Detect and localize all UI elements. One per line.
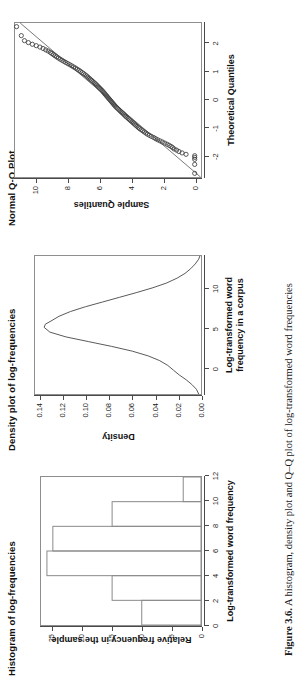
density-curve [35,256,201,394]
qqplot-x-axis [204,22,205,178]
density-y-tick-label: 0.14 [35,403,44,436]
histogram-x-tick-label: 12 [211,462,220,490]
rotated-page-wrapper: Histogram of log-frequencies 024681012 L… [0,0,305,682]
qqplot-point [14,25,18,29]
qqplot-y-tick [164,179,165,183]
panel-density: Density plot of log-frequencies 0510 Log… [0,232,258,457]
histogram-x-tick [205,550,209,551]
histogram-y-tick [82,627,83,631]
density-y-axis [34,395,202,396]
density-y-tick [202,396,203,400]
qqplot-x-label: Theoretical Quantiles [226,22,237,178]
histogram-bar [53,526,201,551]
density-y-tick [40,396,41,400]
qqplot-y-tick-label: 10 [31,186,40,219]
density-x-tick [205,288,209,289]
density-y-tick-label: 0.02 [174,403,183,436]
histogram-x-tick [205,500,209,501]
histogram-x-tick-label: 10 [211,487,220,515]
qqplot-y-tick [36,179,37,183]
histogram-y-tick [202,627,203,631]
histogram-x-tick-label: 2 [211,587,220,615]
density-x-tick-label: 10 [211,275,220,303]
density-x-tick-label: 0 [211,355,220,383]
qqplot-y-tick [68,179,69,183]
histogram-x-tick [205,625,209,626]
density-x-tick-label: 5 [211,315,220,343]
qqplot-point [19,34,23,38]
histogram-y-label: Relative frequency in the sample [32,634,212,645]
histogram-y-tick [172,627,173,631]
histogram-bars [41,477,201,625]
qqplot-x-tick [205,71,209,72]
histogram-x-tick-label: 0 [211,612,220,640]
panel-qqplot: Normal Q-Q Plot -2-1012 Theoretical Quan… [0,0,258,232]
qqplot-x-tick-label: -1 [211,114,220,142]
density-title: Density plot of log-frequencies [6,309,17,451]
histogram-x-tick-label: 8 [211,512,220,540]
histogram-bar [142,600,201,625]
qqplot-y-label: Sample Quantiles [62,199,162,210]
histogram-x-label: Log-transformed word frequency [225,476,236,626]
histogram-bar [183,477,201,502]
qqplot-x-tick-label: 0 [211,86,220,114]
histogram-bar [112,576,201,601]
qqplot-plot-area [14,22,202,178]
histogram-bar [112,502,201,527]
panel-histogram: Histogram of log-frequencies 024681012 L… [0,457,258,682]
qqplot-y-tick-label: 0 [191,186,200,219]
density-y-tick [86,396,87,400]
density-y-label: Density [74,431,164,442]
histogram-y-axis [40,626,202,627]
qqplot-point [22,39,26,43]
histogram-x-tick [205,575,209,576]
qqplot-y-tick [132,179,133,183]
density-plot-area [34,255,202,395]
density-y-tick [63,396,64,400]
density-line [44,256,200,394]
figure-caption-text: A histogram, density plot and Q–Q plot o… [283,283,294,606]
histogram-x-tick [205,525,209,526]
histogram-x-tick [205,600,209,601]
qqplot-y-tick [100,179,101,183]
density-y-tick [179,396,180,400]
histogram-bar [47,551,201,576]
qqplot-point [193,162,197,166]
histogram-y-tick [142,627,143,631]
histogram-x-tick-label: 6 [211,537,220,565]
density-y-tick-label: 0.12 [58,403,67,436]
density-x-tick [205,368,209,369]
histogram-title: Histogram of log-frequencies [6,541,17,676]
density-y-tick [156,396,157,400]
histogram-x-tick [205,475,209,476]
histogram-x-axis [204,476,205,626]
qqplot-x-tick-label: 2 [211,29,220,57]
qqplot-x-tick-label: -2 [211,143,220,171]
qqplot-x-tick [205,127,209,128]
density-x-label-line1: Log-transformed word [224,277,234,373]
qqplot-y-tick [196,179,197,183]
figure-caption-label: Figure 3.6. [283,608,294,656]
qqplot-x-tick [205,99,209,100]
qqplot-x-tick [205,156,209,157]
figure-page: Histogram of log-frequencies 024681012 L… [0,0,305,682]
figure-caption: Figure 3.6. A histogram, density plot an… [283,16,294,656]
density-x-axis [204,255,205,395]
qqplot-points [15,23,201,177]
qqplot-x-tick-label: 1 [211,58,220,86]
histogram-y-tick [112,627,113,631]
histogram-y-tick [52,627,53,631]
histogram-x-tick-label: 4 [211,562,220,590]
density-x-tick [205,328,209,329]
density-y-tick [109,396,110,400]
density-y-tick [132,396,133,400]
histogram-plot-area [40,476,202,626]
qqplot-y-axis [14,178,202,179]
density-y-tick-label: 0.00 [197,403,206,436]
density-x-label-line2: frequency in a corpus [235,278,245,372]
qqplot-x-tick [205,42,209,43]
